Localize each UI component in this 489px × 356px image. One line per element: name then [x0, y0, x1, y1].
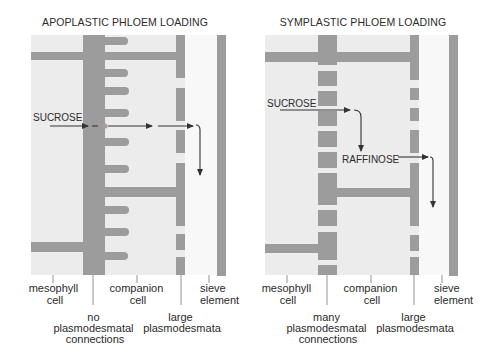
thick-wall-no-plasmodesmata — [83, 35, 105, 275]
sucrose-label: SUCROSE — [33, 112, 83, 123]
companion-cross-wall — [105, 187, 176, 197]
sieve-element-lumen — [185, 35, 217, 275]
label-plasmodesmatal-connections: many plasmodesmatal connections — [286, 311, 369, 345]
label-plasmodesmatal-connections: no plasmodesmatal connections — [53, 311, 136, 345]
sieve-element-wall — [449, 35, 458, 276]
label-sieve-element: sieve element — [200, 282, 239, 306]
label-mesophyll-cell: mesophyll cell — [262, 282, 315, 306]
label-large-plasmodesmata: large plasmodesmata — [376, 311, 455, 334]
panel-title: APOPLASTIC PHLOEM LOADING — [42, 16, 208, 28]
transporter-icon — [102, 123, 107, 128]
label-sieve-element: sieve element — [434, 282, 473, 306]
mesophyll-cross-wall — [265, 244, 318, 253]
label-mesophyll-cell: mesophyll cell — [29, 282, 82, 306]
label-companion-cell: companion cell — [110, 282, 167, 306]
symplastic-panel: SYMPLASTIC PHLOEM LOADING — [262, 16, 473, 345]
sieve-element-wall — [217, 35, 226, 276]
top-cell-wall — [265, 52, 410, 62]
phloem-loading-diagram: APOPLASTIC PHLOEM LOADING — [0, 0, 489, 356]
label-large-plasmodesmata: large plasmodesmata — [143, 311, 222, 334]
apoplastic-panel: APOPLASTIC PHLOEM LOADING — [29, 16, 239, 345]
sucrose-label: SUCROSE — [267, 98, 317, 109]
raffinose-label: RAFFINOSE — [342, 154, 400, 165]
panel-title: SYMPLASTIC PHLOEM LOADING — [280, 16, 446, 28]
sieve-element-lumen — [419, 35, 449, 275]
companion-cross-wall — [337, 188, 410, 197]
wall-many-plasmodesmata — [318, 35, 337, 275]
mesophyll-cross-wall — [31, 242, 83, 252]
label-companion-cell: companion cell — [344, 282, 401, 306]
